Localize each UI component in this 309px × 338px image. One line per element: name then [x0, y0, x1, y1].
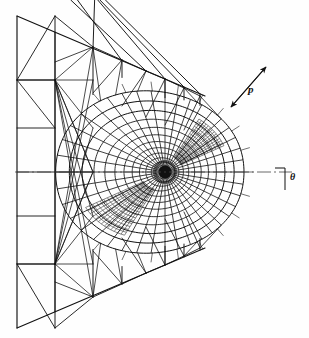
mesh-diagram: [0, 0, 309, 338]
angle-tick-mark: [275, 168, 285, 190]
angle-label: θ: [290, 172, 295, 182]
load-label: p: [248, 84, 254, 95]
figure-root: p θ: [0, 0, 309, 338]
